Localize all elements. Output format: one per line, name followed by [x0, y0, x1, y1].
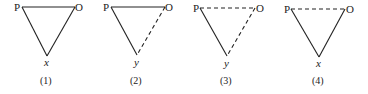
edge-p-bottom [22, 7, 47, 56]
vertex-label-p: P [284, 3, 290, 15]
vertex-label-p: P [193, 2, 199, 14]
edge-o-bottom [227, 8, 255, 56]
edge-o-bottom [319, 9, 345, 57]
vertex-label-o: O [75, 1, 83, 13]
panel-caption: (2) [130, 75, 142, 87]
vertex-label-o: O [256, 2, 264, 14]
panel-caption: (3) [220, 75, 232, 87]
edge-p-bottom [200, 8, 227, 56]
panel-2: P O y (2) [103, 1, 173, 87]
edge-p-bottom [111, 7, 137, 55]
panel-caption: (4) [312, 75, 324, 87]
vertex-label-o: O [165, 1, 173, 13]
vertex-label-bottom: y [223, 57, 229, 69]
panel-3: P O y (3) [193, 2, 264, 87]
vertex-label-p: P [103, 1, 109, 13]
edge-o-bottom [47, 7, 75, 56]
edge-p-bottom [291, 9, 319, 57]
triangle-diagrams: P O x (1) P O y (2) P O y (3) P O x (4) [0, 0, 368, 94]
vertex-label-bottom: x [315, 57, 321, 69]
vertex-label-o: O [346, 3, 354, 15]
panel-4: P O x (4) [284, 3, 354, 87]
panel-caption: (1) [40, 75, 52, 87]
panel-1: P O x (1) [14, 1, 83, 87]
vertex-label-bottom: y [133, 56, 139, 68]
edge-o-bottom [137, 7, 165, 55]
vertex-label-bottom: x [43, 56, 49, 68]
vertex-label-p: P [14, 1, 20, 13]
